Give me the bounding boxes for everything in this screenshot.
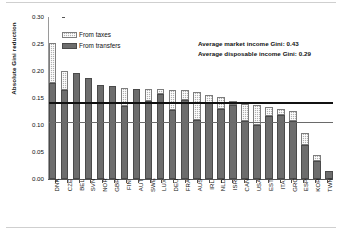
x-label-cell: AUS	[191, 180, 203, 228]
y-axis-title: Absolute Gini reduction	[10, 0, 17, 119]
x-label-cell: SVN	[84, 180, 96, 228]
x-label-cell: DEU	[167, 180, 179, 228]
bar-segment-taxes	[181, 90, 188, 99]
bar-segment-transfers	[253, 125, 260, 179]
bar-segment-transfers	[277, 115, 284, 179]
x-label-cell: NOR	[96, 180, 108, 228]
bar-fin	[121, 17, 128, 179]
bar-segment-taxes	[301, 133, 308, 145]
bar-segment-transfers	[205, 103, 212, 179]
bar-segment-transfers	[193, 120, 200, 179]
x-label-cell: FIN	[120, 180, 132, 228]
bar-segment-transfers	[241, 121, 248, 179]
bar-segment-taxes	[265, 107, 272, 117]
x-label-cell: ISR	[226, 180, 238, 228]
y-tick-label: 0.20	[22, 68, 44, 74]
bar-kor	[313, 17, 320, 179]
bar-segment-transfers	[229, 105, 236, 179]
bar-segment-transfers	[145, 101, 152, 179]
legend-label-transfers: From transfers	[79, 42, 121, 49]
x-label-cell: EST	[262, 180, 274, 228]
x-tick-label-twn: TWN	[327, 178, 333, 192]
x-label-cell: TWN	[321, 180, 333, 228]
bar-segment-taxes	[289, 111, 296, 121]
bar-aut	[133, 17, 140, 179]
x-label-cell: AUT	[132, 180, 144, 228]
y-tick-label: 0.05	[22, 149, 44, 155]
chart-legend: From taxes From transfers	[62, 31, 121, 53]
x-label-cell: IRL	[203, 180, 215, 228]
bar-segment-transfers	[181, 100, 188, 179]
bar-segment-taxes	[241, 104, 248, 121]
x-label-cell: GBR	[108, 180, 120, 228]
y-tick-label: 0.10	[22, 122, 44, 128]
bar-segment-transfers	[121, 106, 128, 179]
x-label-cell: KOR	[309, 180, 321, 228]
y-axis-ticks: 0.300.250.200.150.100.050.00	[18, 0, 44, 230]
gini-reduction-chart: Absolute Gini reduction 0.300.250.200.15…	[0, 0, 341, 230]
legend-swatch-transfers-icon	[62, 43, 77, 49]
legend-label-taxes: From taxes	[79, 31, 111, 38]
bar-segment-transfers	[289, 121, 296, 179]
x-label-cell: LUX	[155, 180, 167, 228]
legend-item-taxes: From taxes	[62, 31, 121, 38]
y-tick-label: 0.25	[22, 41, 44, 47]
x-label-cell: CAN	[238, 180, 250, 228]
bar-segment-transfers	[265, 116, 272, 179]
bar-segment-transfers	[313, 161, 320, 179]
x-label-cell: DNK	[49, 180, 61, 228]
bar-segment-transfers	[169, 110, 176, 179]
chart-annotations: Average market income Gini: 0.43 Average…	[198, 40, 311, 60]
y-tick-label: 0.30	[22, 14, 44, 20]
bar-twn	[325, 17, 332, 179]
bar-segment-taxes	[193, 92, 200, 120]
y-tick-label: 0.15	[22, 95, 44, 101]
bar-segment-transfers	[73, 73, 80, 179]
annotation-market-gini: Average market income Gini: 0.43	[198, 40, 311, 47]
bar-segment-taxes	[169, 90, 176, 110]
x-label-cell: ESP	[297, 180, 309, 228]
legend-item-transfers: From transfers	[62, 42, 121, 49]
x-label-cell: CZE	[61, 180, 73, 228]
x-label-cell: ITA	[274, 180, 286, 228]
x-label-cell: NLD	[215, 180, 227, 228]
y-tick-label: 0.00	[22, 176, 44, 182]
bar-deu	[169, 17, 176, 179]
figure-top-rule	[6, 2, 336, 3]
reference-line-average-market-income-gini	[49, 102, 333, 104]
bar-dnk	[49, 17, 56, 179]
bar-segment-taxes	[49, 43, 56, 84]
bar-segment-transfers	[217, 109, 224, 179]
bar-segment-transfers	[49, 83, 56, 179]
x-label-cell: GRC	[286, 180, 298, 228]
bar-segment-taxes	[61, 71, 68, 90]
bar-segment-transfers	[157, 94, 164, 179]
x-axis-labels: DNKCZEBELSVNNORGBRFINAUTSWELUXDEUFRAAUSI…	[49, 180, 333, 228]
annotation-disposable-gini: Average disposable income Gini: 0.29	[198, 50, 311, 57]
x-label-cell: SWE	[144, 180, 156, 228]
x-label-cell: USA	[250, 180, 262, 228]
bar-segment-transfers	[97, 85, 104, 179]
bar-lux	[157, 17, 164, 179]
legend-swatch-taxes-icon	[62, 32, 77, 38]
bar-segment-transfers	[109, 86, 116, 179]
bar-fra	[181, 17, 188, 179]
bar-segment-taxes	[145, 89, 152, 101]
reference-line-average-disposable-income-gini	[49, 122, 333, 123]
bar-swe	[145, 17, 152, 179]
x-label-cell: BEL	[73, 180, 85, 228]
bar-segment-transfers	[301, 145, 308, 179]
x-label-cell: FRA	[179, 180, 191, 228]
bar-segment-transfers	[85, 78, 92, 179]
